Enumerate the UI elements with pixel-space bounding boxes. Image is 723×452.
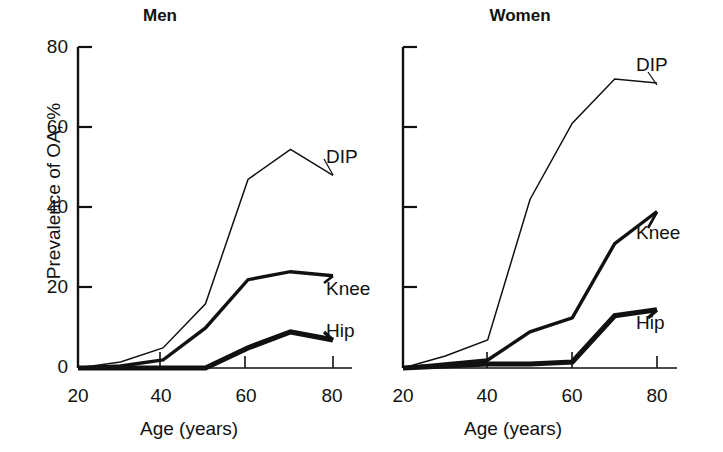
plot-area-women bbox=[360, 0, 723, 452]
series-line-knee-women bbox=[403, 212, 657, 369]
series-line-hip-women bbox=[403, 310, 657, 368]
series-leader-knee-men bbox=[324, 276, 333, 283]
series-line-dip-women bbox=[403, 79, 657, 368]
figure-container: Men Prevalence of OA, % 80 60 40 20 0 20… bbox=[0, 0, 723, 452]
series-line-knee-men bbox=[78, 272, 333, 368]
chart-panel-women: Women 20 40 60 80 Age (years) DIP Knee H… bbox=[360, 0, 723, 452]
plot-area-men bbox=[0, 0, 363, 452]
chart-panel-men: Men Prevalence of OA, % 80 60 40 20 0 20… bbox=[0, 0, 363, 452]
